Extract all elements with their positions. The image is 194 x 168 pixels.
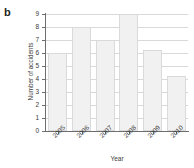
gridline xyxy=(46,53,188,54)
y-axis-tick-label: 0 xyxy=(29,128,39,135)
bar xyxy=(72,27,91,131)
y-axis-title: Number of accidents xyxy=(24,22,36,122)
bar xyxy=(96,40,115,131)
bar xyxy=(119,14,138,131)
y-axis-title-text: Number of accidents xyxy=(27,22,34,122)
x-axis-line xyxy=(45,131,189,132)
gridline xyxy=(46,66,188,67)
bar xyxy=(167,76,186,131)
bar xyxy=(48,53,67,131)
y-axis-ticks: 0123456789 xyxy=(0,0,46,168)
gridline xyxy=(46,14,188,15)
gridline xyxy=(46,40,188,41)
y-axis-tick-label: 9 xyxy=(29,11,39,18)
gridline xyxy=(46,27,188,28)
bar xyxy=(143,50,162,131)
plot-area xyxy=(46,14,188,131)
x-axis-title: Year xyxy=(46,155,188,162)
